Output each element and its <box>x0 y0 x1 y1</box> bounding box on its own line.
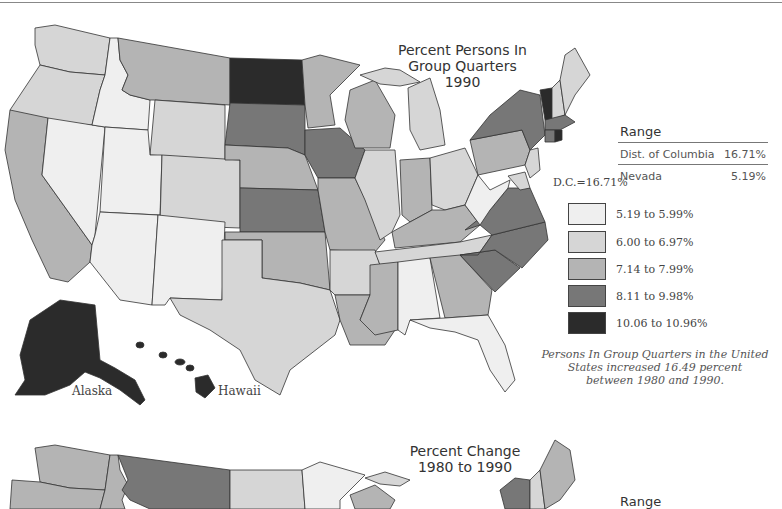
map1-title-line2: Group Quarters <box>385 58 540 74</box>
legend-swatch-5 <box>568 312 606 334</box>
range-min-value: 5.19% <box>731 170 766 183</box>
range-divider-mid <box>618 164 768 165</box>
map2-title: Percent Change 1980 to 1990 <box>395 443 535 475</box>
dc-label: D.C.=16.71% <box>553 176 628 189</box>
legend-label-3: 7.14 to 7.99% <box>616 263 693 276</box>
legend-swatch-1 <box>568 203 606 225</box>
hawaii-label: Hawaii <box>218 384 261 398</box>
legend-swatch-3 <box>568 258 606 280</box>
note-line1: Persons In Group Quarters in the United <box>530 348 780 361</box>
legend-item-4: 8.11 to 9.98% <box>568 285 693 307</box>
range-title: Range <box>620 124 661 139</box>
map2-title-line1: Percent Change <box>395 443 535 459</box>
range-row-max: Dist. of Columbia 16.71% <box>620 148 766 161</box>
map1-title-line3: 1990 <box>385 74 540 90</box>
legend-item-2: 6.00 to 6.97% <box>568 231 693 253</box>
map2-range-title: Range <box>620 494 661 509</box>
legend-label-4: 8.11 to 9.98% <box>616 290 693 303</box>
legend-item-1: 5.19 to 5.99% <box>568 203 693 225</box>
legend-label-1: 5.19 to 5.99% <box>616 208 693 221</box>
legend-item-5: 10.06 to 10.96% <box>568 312 707 334</box>
map1-title-line1: Percent Persons In <box>385 42 540 58</box>
alaska-label: Alaska <box>72 384 112 398</box>
note-line3: between 1980 and 1990. <box>530 374 780 387</box>
legend-item-3: 7.14 to 7.99% <box>568 258 693 280</box>
range-row-min: Nevada 5.19% <box>620 170 766 183</box>
note-line2: States increased 16.49 percent <box>530 361 780 374</box>
range-divider-top <box>618 142 768 143</box>
legend-label-2: 6.00 to 6.97% <box>616 236 693 249</box>
range-max-value: 16.71% <box>724 148 766 161</box>
summary-note: Persons In Group Quarters in the United … <box>530 348 780 387</box>
map1-title: Percent Persons In Group Quarters 1990 <box>385 42 540 90</box>
map2-title-line2: 1980 to 1990 <box>395 459 535 475</box>
legend-label-5: 10.06 to 10.96% <box>616 317 707 330</box>
legend-swatch-2 <box>568 231 606 253</box>
range-max-label: Dist. of Columbia <box>620 148 715 161</box>
legend-swatch-4 <box>568 285 606 307</box>
